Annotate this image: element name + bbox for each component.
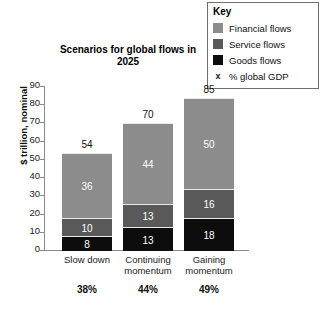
- legend-label-goods-flows: Goods flows: [229, 55, 281, 66]
- bar-segment-value: 13: [123, 234, 173, 245]
- bar-segment[interactable]: 36: [62, 153, 112, 219]
- legend-label-financial-flows: Financial flows: [229, 23, 291, 34]
- chart-title: Scenarios for global flows in 2025: [52, 44, 204, 68]
- bar-segment[interactable]: 10: [62, 218, 112, 236]
- legend-box: Key Financial flows Service flows Goods …: [207, 2, 319, 89]
- y-axis-label: $ trillion, nominal: [18, 51, 29, 201]
- bar-segment[interactable]: 13: [123, 204, 173, 228]
- x-axis-category-label: Gaining momentum: [176, 254, 242, 276]
- bar-segment[interactable]: 16: [184, 189, 234, 218]
- y-axis-tick-mark: [40, 159, 44, 160]
- bar-segment-value: 16: [184, 199, 234, 210]
- y-axis-tick-mark: [40, 177, 44, 178]
- bar-total-label: 70: [123, 109, 173, 120]
- legend-title: Key: [213, 6, 314, 18]
- plot-area: 0102030405060708090 54361087044131385501…: [44, 86, 249, 252]
- stacked-bar[interactable]: 70441313: [123, 123, 173, 251]
- y-axis-tick-label: 40: [29, 170, 40, 182]
- y-axis-tick-label: 60: [29, 134, 40, 146]
- y-axis-tick-label: 30: [29, 188, 40, 200]
- legend-label-service-flows: Service flows: [229, 39, 285, 50]
- y-axis-tick-mark: [40, 122, 44, 123]
- bar-segment[interactable]: 44: [123, 123, 173, 203]
- y-axis-tick-mark: [40, 86, 44, 87]
- legend-swatch-goods-flows: [213, 55, 223, 65]
- y-axis-tick-mark: [40, 232, 44, 233]
- bar-segment[interactable]: 18: [184, 218, 234, 251]
- bar-segment[interactable]: 13: [123, 227, 173, 251]
- legend-item-pct-global-gdp: x % global GDP: [213, 68, 314, 84]
- bar-segment-value: 44: [123, 159, 173, 170]
- y-axis-tick-mark: [40, 141, 44, 142]
- legend-label-pct-global-gdp: % global GDP: [229, 71, 289, 82]
- stacked-bar[interactable]: 5436108: [62, 153, 112, 251]
- legend-item-service-flows: Service flows: [213, 36, 314, 52]
- legend-item-financial-flows: Financial flows: [213, 20, 314, 36]
- y-axis-tick-mark: [40, 104, 44, 105]
- legend-swatch-financial-flows: [213, 23, 223, 33]
- y-axis-tick-mark: [40, 250, 44, 251]
- y-axis-tick-label: 10: [29, 225, 40, 237]
- gdp-percent-label: 44%: [115, 284, 181, 295]
- bar-total-label: 54: [62, 139, 112, 150]
- y-axis-tick-label: 90: [29, 79, 40, 91]
- y-axis-tick-label: 70: [29, 115, 40, 127]
- y-axis-tick-label: 50: [29, 152, 40, 164]
- y-axis-tick-mark: [40, 214, 44, 215]
- bar-segment-value: 50: [184, 139, 234, 150]
- bar-segment-value: 36: [62, 180, 112, 191]
- bar-segment[interactable]: 8: [62, 236, 112, 251]
- legend-swatch-service-flows: [213, 39, 223, 49]
- gdp-percent-label: 49%: [176, 284, 242, 295]
- y-axis-tick-mark: [40, 195, 44, 196]
- y-axis-tick-label: 20: [29, 207, 40, 219]
- bar-segment[interactable]: 50: [184, 98, 234, 189]
- bar-segment-value: 10: [62, 222, 112, 233]
- stacked-bar[interactable]: 85501618: [184, 98, 234, 251]
- bar-segment-value: 13: [123, 210, 173, 221]
- legend-item-goods-flows: Goods flows: [213, 52, 314, 68]
- bar-segment-value: 8: [62, 239, 112, 250]
- x-axis-category-label: Continuing momentum: [115, 254, 181, 276]
- y-axis-tick-label: 80: [29, 97, 40, 109]
- bar-total-label: 85: [184, 84, 234, 95]
- y-axis-tick-label: 0: [35, 243, 40, 255]
- x-axis-category-label: Slow down: [54, 254, 120, 265]
- bar-segment-value: 18: [184, 230, 234, 241]
- x-marker-icon: x: [213, 71, 223, 81]
- gdp-percent-label: 38%: [54, 284, 120, 295]
- y-axis-line: [44, 86, 45, 250]
